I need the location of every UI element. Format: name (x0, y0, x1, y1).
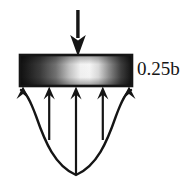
reaction-arrow-2 (44, 87, 55, 141)
applied-load-arrow (70, 10, 86, 57)
diagram-canvas (0, 0, 189, 190)
load-arrow-head (70, 35, 86, 57)
reaction-arrow-4-shaft (102, 94, 104, 140)
reaction-arrow-5-head (123, 87, 136, 100)
bearing-plate-shading (20, 55, 132, 86)
reaction-arrow-3 (70, 87, 81, 176)
reaction-arrow-2-shaft (48, 94, 50, 140)
load-arrow-shaft (76, 10, 79, 38)
reaction-arrow-1-head (17, 87, 30, 100)
reaction-arrow-5 (123, 87, 136, 100)
bearing-pressure-diagram: 0.25b (0, 0, 189, 190)
reaction-arrow-4 (97, 87, 108, 141)
bearing-plate (20, 55, 132, 86)
reaction-arrow-3-shaft (75, 94, 77, 175)
dimension-label-025b: 0.25b (137, 58, 180, 80)
reaction-arrow-1 (17, 87, 30, 100)
reaction-arrows-group (17, 87, 136, 176)
